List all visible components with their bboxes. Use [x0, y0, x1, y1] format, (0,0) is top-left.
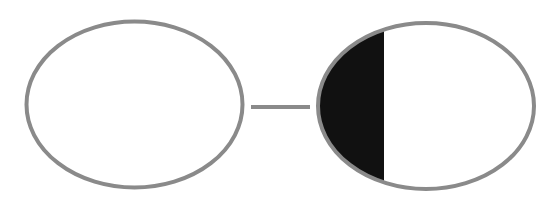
diagram-svg [0, 0, 553, 197]
right-ellipse-dark-segment [300, 0, 384, 197]
left-ellipse [27, 22, 243, 188]
diagram-canvas [0, 0, 553, 197]
